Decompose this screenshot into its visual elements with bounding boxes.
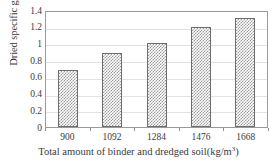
bar[interactable] [58, 70, 78, 127]
bar[interactable] [147, 43, 167, 127]
y-axis-tick-label: 1.2 [21, 23, 42, 32]
plot-area [45, 11, 268, 128]
bar[interactable] [235, 18, 255, 127]
x-axis-tick-label: 1476 [179, 131, 224, 143]
bar-slot [134, 12, 178, 127]
y-axis-tick-label: 1 [21, 40, 42, 49]
y-axis-tick-label: 0 [21, 124, 42, 133]
x-axis-tick-label: 900 [45, 131, 90, 143]
y-axis-tick-label: 0.2 [21, 107, 42, 116]
y-axis-tick-label: 0.8 [21, 57, 42, 66]
y-axis-tick-label: 0.4 [21, 90, 42, 99]
x-axis-tick-label: 1284 [134, 131, 179, 143]
x-axis-tick-labels: 9001092128414761668 [45, 131, 268, 143]
bar-series [46, 12, 267, 127]
bar-chart-figure: Dried specific gravity 1.41.210.80.60.40… [0, 0, 277, 165]
y-axis-tick-label: 0.6 [21, 73, 42, 82]
bar[interactable] [191, 27, 211, 127]
bar-slot [223, 12, 267, 127]
x-axis-title-suffix: ) [235, 146, 239, 157]
x-axis-title-text: Total amount of binder and dredged soil(… [38, 146, 231, 157]
bar-slot [179, 12, 223, 127]
x-axis-title: Total amount of binder and dredged soil(… [0, 145, 277, 158]
y-axis-tick-label: 1.4 [21, 7, 42, 16]
x-axis-tick-label: 1668 [223, 131, 268, 143]
bar-slot [90, 12, 134, 127]
y-axis-tick-labels: 1.41.210.80.60.40.20 [21, 11, 42, 128]
y-axis-title: Dried specific gravity [8, 0, 22, 80]
bar-slot [46, 12, 90, 127]
bar[interactable] [102, 53, 122, 127]
x-axis-tick-label: 1092 [90, 131, 135, 143]
x-axis-tick-mark [268, 128, 269, 131]
